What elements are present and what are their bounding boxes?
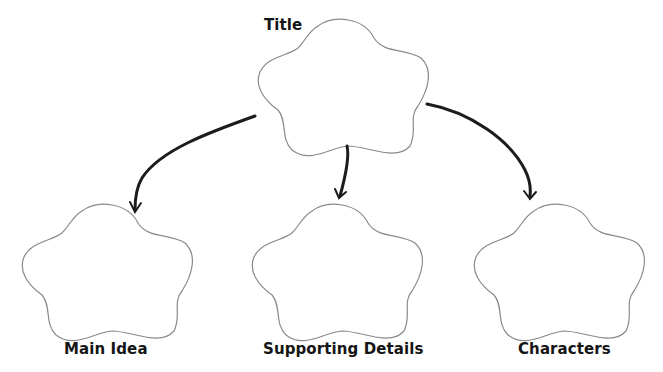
arrow-to-main-idea <box>130 116 255 212</box>
node-label-supporting-details: Supporting Details <box>263 340 424 358</box>
cloud-characters <box>474 204 644 340</box>
cloud-supporting-details <box>252 204 422 340</box>
node-label-title: Title <box>264 16 302 34</box>
node-label-characters: Characters <box>518 340 611 358</box>
arrow-to-supporting-details <box>335 146 348 198</box>
diagram-canvas <box>0 0 663 372</box>
cloud-title <box>258 19 428 155</box>
arrow-to-characters <box>427 104 536 199</box>
cloud-main-idea <box>22 204 192 340</box>
node-label-main-idea: Main Idea <box>64 340 148 358</box>
